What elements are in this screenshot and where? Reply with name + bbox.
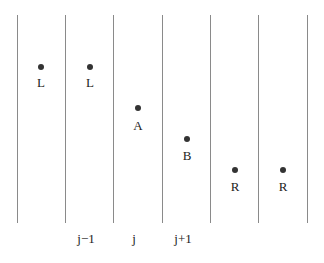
point-dot-l2 (87, 64, 93, 70)
column-line-1 (17, 15, 18, 223)
point-dot-r1 (232, 167, 238, 173)
column-line-6 (258, 15, 259, 223)
column-label-j-minus-1: j−1 (66, 232, 106, 246)
staircase-column-diagram: L L A B R R j−1 j j+1 (0, 0, 324, 263)
column-line-4 (162, 15, 163, 223)
point-label-b: B (177, 149, 197, 163)
point-label-l2: L (80, 76, 100, 90)
column-line-7 (307, 15, 308, 223)
point-label-r1: R (225, 180, 245, 194)
column-label-j-plus-1: j+1 (163, 232, 203, 246)
point-dot-b (184, 136, 190, 142)
column-line-3 (113, 15, 114, 223)
point-dot-r2 (280, 167, 286, 173)
point-label-a: A (128, 119, 148, 133)
point-dot-l1 (38, 64, 44, 70)
column-label-j: j (114, 232, 154, 246)
column-line-5 (210, 15, 211, 223)
column-line-2 (65, 15, 66, 223)
point-label-l1: L (31, 76, 51, 90)
point-label-r2: R (273, 180, 293, 194)
point-dot-a (135, 105, 141, 111)
